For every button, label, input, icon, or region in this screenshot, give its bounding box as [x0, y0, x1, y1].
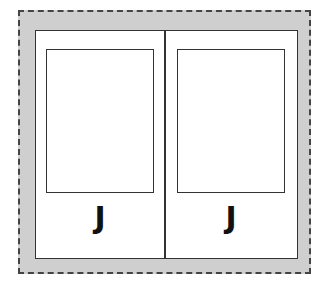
panel-divider — [164, 30, 166, 259]
left-letter: J — [80, 200, 120, 236]
right-image-frame — [177, 49, 285, 193]
left-image-frame — [46, 49, 154, 193]
right-letter: J — [211, 200, 251, 236]
